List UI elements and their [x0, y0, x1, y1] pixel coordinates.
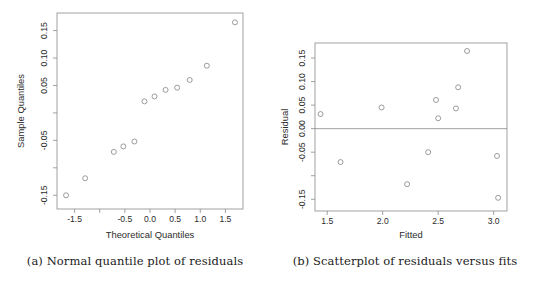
plot-b-y-axis-title: Residual [279, 109, 290, 145]
data-point [204, 63, 209, 68]
plot-a-y-ticks [53, 31, 57, 196]
figure-caption-row: (a) Normal quantile plot of residuals (b… [0, 248, 540, 295]
x-tick-label: 2.0 [377, 216, 389, 226]
plot-a-data-points [64, 20, 238, 198]
data-point [433, 97, 438, 102]
figure-panels-row: 0.150.100.05-0.05-0.15 -1.5-0.50.00.51.0… [0, 0, 540, 245]
panel-b-residuals-vs-fits-plot: 0.150.100.050.00-0.05-0.15 1.52.02.53.0 … [270, 0, 540, 245]
data-point [379, 105, 384, 110]
x-tick-label: 0.5 [169, 214, 181, 224]
normal-quantile-plot-svg: 0.150.100.05-0.05-0.15 -1.5-0.50.00.51.0… [0, 0, 270, 245]
plot-a-x-ticks [75, 209, 226, 213]
data-point [163, 87, 168, 92]
data-point [453, 106, 458, 111]
data-point [83, 176, 88, 181]
data-point [132, 139, 137, 144]
plot-b-x-tick-labels: 1.52.02.53.0 [321, 216, 500, 226]
data-point [64, 193, 69, 198]
plot-b-x-ticks [327, 211, 493, 215]
x-tick-label: 2.5 [432, 216, 444, 226]
y-tick-label: 0.00 [297, 120, 307, 137]
plot-a-axes [53, 13, 243, 213]
data-point [152, 94, 157, 99]
data-point [232, 20, 237, 25]
y-tick-label: 0.10 [39, 49, 49, 66]
plot-b-y-ticks [311, 58, 315, 199]
plot-b-frame [315, 43, 507, 211]
x-tick-label: 1.5 [321, 216, 333, 226]
y-tick-label: -0.15 [297, 189, 307, 209]
data-point [496, 195, 501, 200]
y-tick-label: 0.05 [297, 97, 307, 114]
data-point [405, 182, 410, 187]
y-tick-label: 0.05 [39, 77, 49, 94]
residuals-versus-fits-svg: 0.150.100.050.00-0.05-0.15 1.52.02.53.0 … [270, 0, 540, 245]
x-tick-label: 1.5 [219, 214, 231, 224]
data-point [426, 150, 431, 155]
data-point [495, 153, 500, 158]
plot-a-y-tick-labels: 0.150.100.05-0.05-0.15 [39, 22, 49, 205]
y-tick-label: -0.15 [39, 185, 49, 205]
data-point [456, 85, 461, 90]
y-tick-label: 0.15 [39, 22, 49, 39]
y-tick-label: 0.10 [297, 73, 307, 90]
plot-b-x-axis-title: Fitted [399, 229, 422, 240]
caption-panel-a: (a) Normal quantile plot of residuals [0, 254, 270, 268]
data-point [318, 112, 323, 117]
data-point [338, 160, 343, 165]
x-tick-label: -0.5 [117, 214, 132, 224]
plot-a-y-axis-title: Sample Quantiles [15, 74, 26, 148]
data-point [187, 77, 192, 82]
data-point [121, 144, 126, 149]
data-point [175, 85, 180, 90]
data-point [465, 49, 470, 54]
plot-a-frame [57, 13, 243, 209]
y-tick-label: -0.05 [297, 142, 307, 162]
x-tick-label: 3.0 [488, 216, 500, 226]
data-point [111, 149, 116, 154]
x-tick-label: -1.5 [67, 214, 82, 224]
data-point [436, 116, 441, 121]
plot-b-data-points [318, 49, 501, 201]
plot-a-x-axis-title: Theoretical Quantiles [106, 229, 195, 240]
plot-b-y-tick-labels: 0.150.100.050.00-0.05-0.15 [297, 49, 307, 209]
plot-a-x-tick-labels: -1.5-0.50.00.51.01.5 [67, 214, 231, 224]
x-tick-label: 1.0 [194, 214, 206, 224]
y-tick-label: -0.05 [39, 130, 49, 150]
data-point [142, 99, 147, 104]
y-tick-label: 0.15 [297, 49, 307, 66]
caption-panel-b: (b) Scatterplot of residuals versus fits [270, 254, 540, 268]
x-tick-label: 0.0 [144, 214, 156, 224]
panel-a-normal-quantile-plot: 0.150.100.05-0.05-0.15 -1.5-0.50.00.51.0… [0, 0, 270, 245]
